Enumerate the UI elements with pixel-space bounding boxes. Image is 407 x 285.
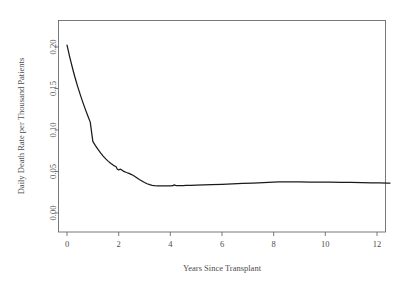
y-axis-tick-labels: 0.00 0.05 0.10 0.15 0.20: [48, 40, 58, 221]
y-tick-label-4: 0.20: [48, 40, 58, 55]
x-tick-label-6: 12: [373, 239, 382, 249]
x-tick-label-1: 2: [117, 239, 121, 249]
x-tick-label-3: 6: [220, 239, 224, 249]
line-chart: 0.00 0.05 0.10 0.15 0.20 0 2 4 6 8 10 12: [0, 0, 407, 285]
chart-figure: 0.00 0.05 0.10 0.15 0.20 0 2 4 6 8 10 12: [0, 0, 407, 285]
x-tick-label-4: 8: [272, 239, 276, 249]
y-tick-label-1: 0.05: [48, 164, 58, 179]
data-series-line: [67, 45, 390, 186]
y-tick-label-0: 0.00: [48, 206, 58, 221]
y-axis-title: Daily Death Rate per Thousand Patients: [16, 58, 26, 195]
x-tick-label-5: 10: [321, 239, 330, 249]
x-axis-ticks: [67, 232, 377, 236]
x-axis-tick-labels: 0 2 4 6 8 10 12: [65, 239, 381, 249]
y-tick-label-3: 0.15: [48, 81, 58, 96]
x-tick-label-2: 4: [168, 239, 173, 249]
x-tick-label-0: 0: [65, 239, 69, 249]
plot-frame: [59, 21, 386, 233]
y-tick-label-2: 0.10: [48, 123, 58, 138]
x-axis-title: Years Since Transplant: [183, 263, 262, 273]
